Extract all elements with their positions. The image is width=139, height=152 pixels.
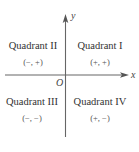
quadrant-3: Quadrant III (−, −) xyxy=(1,96,63,123)
quadrant-2-signs: (−, +) xyxy=(2,57,64,67)
quadrant-4-signs: (+, −) xyxy=(69,113,131,123)
quadrant-2: Quadrant II (−, +) xyxy=(2,40,64,67)
coordinate-plane-diagram: y x O Quadrant II (−, +) Quadrant I (+, … xyxy=(0,0,139,152)
quadrant-1-name: Quadrant I xyxy=(69,40,131,51)
quadrant-4-name: Quadrant IV xyxy=(69,96,131,107)
quadrant-3-signs: (−, −) xyxy=(1,113,63,123)
quadrant-2-name: Quadrant II xyxy=(2,40,64,51)
origin-label: O xyxy=(56,78,63,88)
x-axis-label: x xyxy=(131,70,135,80)
quadrant-4: Quadrant IV (+, −) xyxy=(69,96,131,123)
quadrant-1: Quadrant I (+, +) xyxy=(69,40,131,67)
axes xyxy=(0,0,139,152)
y-axis-label: y xyxy=(71,11,75,21)
quadrant-1-signs: (+, +) xyxy=(69,57,131,67)
quadrant-3-name: Quadrant III xyxy=(1,96,63,107)
